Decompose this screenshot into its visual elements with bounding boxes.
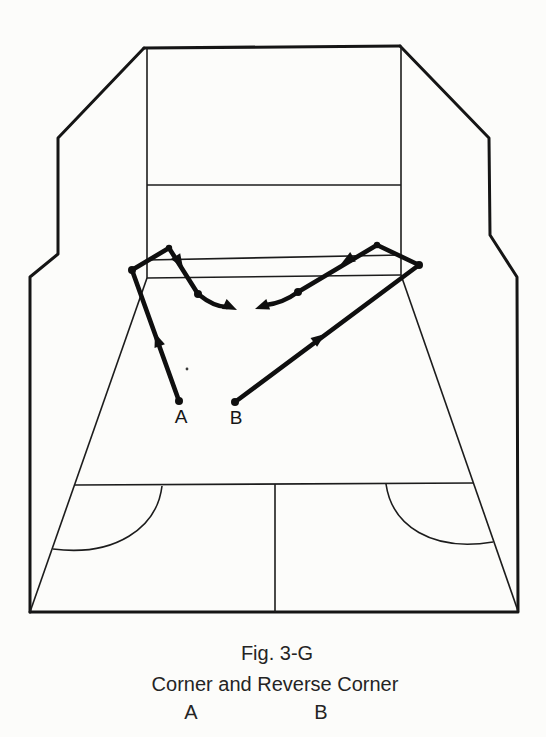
book-page: A B Fig. 3-G Corner and Reverse Corner A… — [0, 0, 546, 737]
path-b-start-dot — [231, 398, 239, 406]
floor-left-edge — [30, 278, 147, 612]
path-b-rebound-arrowhead — [341, 252, 356, 264]
floor-right-edge — [401, 275, 518, 611]
path-b-bounce-arrowhead — [255, 299, 270, 309]
ink-speck — [186, 368, 189, 371]
player-a-label: A — [175, 406, 188, 427]
outer-wall-right — [400, 46, 518, 611]
caption-column-b: B — [314, 701, 327, 723]
court-floor — [30, 275, 518, 612]
shot-path-b — [231, 242, 423, 406]
path-b-floor-dot — [294, 288, 302, 296]
figure-caption: Fig. 3-G Corner and Reverse Corner A B — [152, 642, 399, 723]
court-diagram: A B Fig. 3-G Corner and Reverse Corner A… — [0, 0, 546, 737]
path-a-frontwall-dot — [166, 245, 172, 251]
shot-path-a — [128, 245, 237, 405]
path-b-rebound — [298, 245, 377, 292]
player-b-label: B — [230, 407, 243, 428]
path-b-drive — [235, 265, 419, 402]
outer-wall-left — [30, 48, 144, 612]
path-a-sidewall-dot — [128, 266, 136, 274]
path-a-drive-arrowhead — [155, 333, 165, 348]
ceiling-front-edge — [144, 46, 400, 48]
front-wall — [147, 46, 401, 278]
path-b-sidewall-dot — [415, 261, 423, 269]
path-a-bounce-curve — [198, 294, 227, 307]
path-a-bounce-arrowhead — [222, 299, 237, 310]
path-b-bounce-curve — [266, 292, 298, 305]
path-a-floor-dot — [194, 290, 202, 298]
figure-number: Fig. 3-G — [241, 642, 313, 664]
court-outer-walls — [30, 46, 518, 612]
service-arc-left — [53, 486, 162, 550]
path-a-start-dot — [175, 397, 183, 405]
figure-title: Corner and Reverse Corner — [152, 673, 399, 695]
path-a-rebound — [169, 248, 198, 294]
caption-column-a: A — [184, 701, 198, 723]
path-b-frontwall-dot — [374, 242, 380, 248]
